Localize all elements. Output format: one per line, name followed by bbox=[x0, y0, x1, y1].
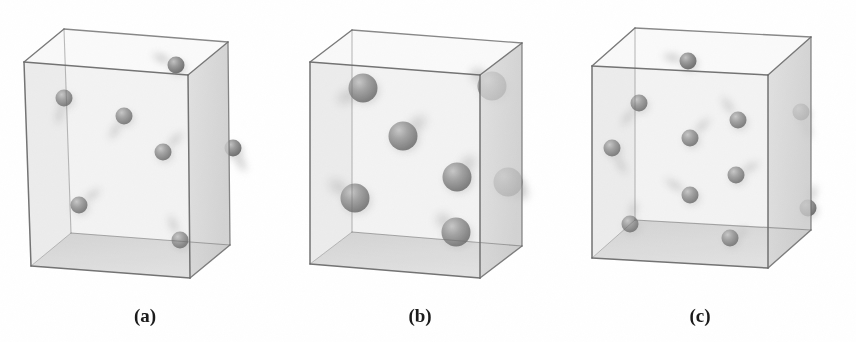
figure-canvas: (a)(b)(c) bbox=[0, 0, 856, 342]
figure-svg: (a)(b)(c) bbox=[0, 0, 856, 342]
paper-grain-overlay bbox=[0, 0, 856, 342]
